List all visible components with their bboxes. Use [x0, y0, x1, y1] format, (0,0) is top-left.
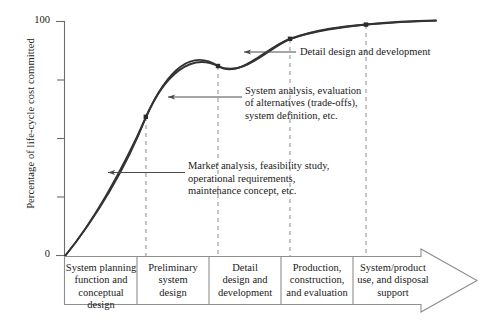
annotation-system-analysis-line-2: of alternatives (trade-offs), [245, 97, 361, 110]
phase-label-3-line-1: Detail [209, 262, 281, 274]
phase-label-2-line-2: system [137, 274, 209, 286]
phase-label-4-line-2: construction, [281, 274, 353, 286]
y-tick-label-100: 100 [24, 14, 50, 25]
phase-label-4-line-3: and evaluation [281, 287, 353, 299]
annotation-market-analysis-line-2: operational requirements, [188, 173, 329, 186]
curve-marker-1 [144, 115, 148, 119]
annotation-market-analysis-line-3: maintenance concept, etc. [188, 185, 329, 198]
curve-marker-4 [364, 22, 368, 26]
phase-label-5-line-3: support [352, 287, 434, 299]
phase-label-3-line-3: development [209, 287, 281, 299]
phase-label-3-line-2: design and [209, 274, 281, 286]
curve-marker-2 [216, 64, 220, 68]
phase-label-1-line-3: conceptual design [65, 287, 137, 312]
annotation-market-analysis-line-1: Market analysis, feasibility study, [188, 160, 329, 173]
annotation-system-analysis-line-3: system definition, etc. [245, 110, 361, 123]
life-cycle-cost-figure: Percentage of life-cycle cost committed … [0, 0, 487, 321]
annotation-system-analysis-line-1: System analysis, evaluation [245, 85, 361, 98]
annotation-system-analysis: System analysis, evaluation of alternati… [245, 85, 361, 123]
phase-label-1: System planning function and conceptual … [65, 262, 137, 311]
phase-label-5-line-2: use, and disposal [352, 274, 434, 286]
phase-label-1-line-1: System planning [65, 262, 137, 274]
annotation-detail-design-line-1: Detail design and development [300, 46, 430, 59]
phase-label-4: Production, construction, and evaluation [281, 262, 353, 299]
phase-label-4-line-1: Production, [281, 262, 353, 274]
y-axis-title: Percentage of life-cycle cost committed [25, 24, 36, 224]
phase-label-3: Detail design and development [209, 262, 281, 299]
phase-label-5: System/product use, and disposal support [352, 262, 434, 299]
y-axis [56, 21, 65, 256]
annotation-market-analysis: Market analysis, feasibility study, oper… [188, 160, 329, 198]
phase-label-2-line-3: design [137, 287, 209, 299]
curve-marker-3 [288, 37, 292, 41]
phase-label-5-line-1: System/product [352, 262, 434, 274]
annotation-detail-design: Detail design and development [300, 46, 430, 59]
phase-label-2-line-1: Preliminary [137, 262, 209, 274]
y-tick-label-0: 0 [24, 248, 50, 259]
phase-label-1-line-2: function and [65, 274, 137, 286]
phase-label-2: Preliminary system design [137, 262, 209, 299]
